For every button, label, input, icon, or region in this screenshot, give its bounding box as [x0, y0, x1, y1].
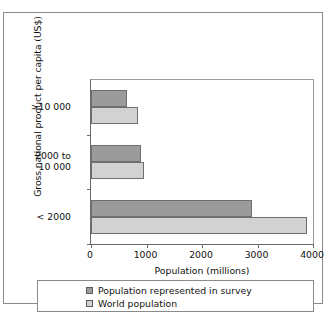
legend-label: World population: [98, 298, 177, 309]
category-label: < 2000: [0, 211, 71, 222]
x-axis-tick-label: 2000: [175, 249, 227, 260]
legend-item[interactable]: World population: [86, 297, 313, 309]
legend-label: Population represented in survey: [98, 285, 252, 296]
bar-world: [91, 217, 307, 234]
x-axis-tick-label: 1000: [120, 249, 172, 260]
bars-layer: [91, 80, 313, 244]
legend-swatch-icon: [86, 287, 93, 294]
plot-area: [90, 79, 314, 245]
x-axis-tick: [202, 244, 203, 248]
y-axis-tick: [87, 135, 91, 136]
x-axis-tick: [313, 244, 314, 248]
chart-legend: Population represented in surveyWorld po…: [37, 280, 314, 312]
y-axis-tick: [87, 189, 91, 190]
chart-figure: Gross national product per capita (US$) …: [3, 12, 323, 304]
x-axis-title: Population (millions): [90, 265, 314, 276]
x-axis-tick: [91, 244, 92, 248]
legend-item[interactable]: Population represented in survey: [86, 284, 313, 296]
x-axis-tick-label: 4000: [286, 249, 331, 260]
bar-survey: [91, 200, 252, 217]
x-axis-tick: [258, 244, 259, 248]
bar-survey: [91, 145, 141, 162]
x-axis-tick: [147, 244, 148, 248]
bar-survey: [91, 90, 127, 107]
category-label: >10 000: [0, 101, 71, 112]
category-label: 2000 to 10 000: [0, 150, 71, 172]
x-axis-tick-label: 0: [64, 249, 116, 260]
x-axis-tick-label: 3000: [231, 249, 283, 260]
bar-world: [91, 162, 144, 179]
bar-world: [91, 107, 138, 124]
legend-swatch-icon: [86, 300, 93, 307]
